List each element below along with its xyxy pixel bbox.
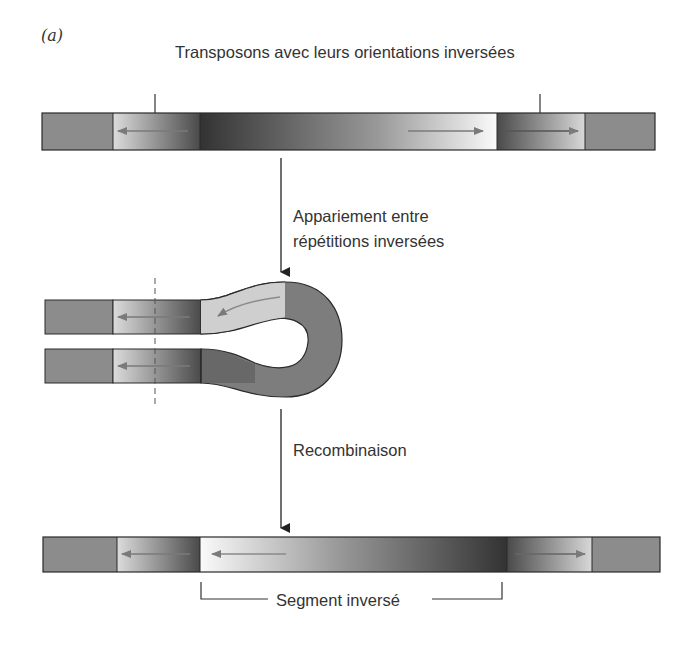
hairpin-structure	[45, 282, 342, 397]
inverted-segment-bracket	[201, 582, 502, 599]
inverted-chromosome-bar	[43, 537, 660, 572]
diagram-canvas	[0, 0, 693, 645]
original-chromosome-bar	[42, 113, 655, 150]
